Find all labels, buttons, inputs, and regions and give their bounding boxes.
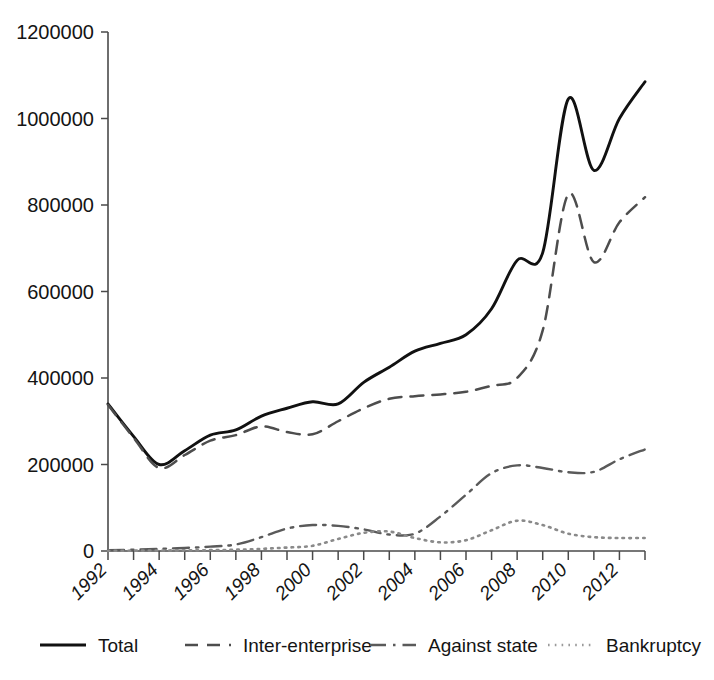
series-line-against-state: [108, 449, 645, 550]
y-tick-label: 0: [83, 540, 94, 562]
x-tick-label: 2012: [577, 559, 623, 605]
y-tick-label: 1000000: [16, 108, 94, 130]
y-tick-label: 200000: [27, 454, 94, 476]
series-line-total: [108, 82, 645, 465]
legend-item-label: Bankruptcy: [606, 635, 702, 656]
legend-item-label: Total: [98, 635, 138, 656]
x-tick-label: 2002: [321, 559, 367, 605]
x-tick-label: 2010: [526, 559, 572, 605]
x-tick-label: 1998: [220, 559, 265, 604]
x-tick-label: 1996: [168, 559, 213, 604]
x-tick-label: 1994: [117, 559, 162, 604]
legend-item-total: Total: [40, 635, 138, 656]
legend-item-inter-enterprise: Inter-enterprise: [185, 635, 372, 656]
x-tick-label: 2000: [270, 559, 316, 605]
x-axis-tick-marks: [108, 551, 645, 560]
series-line-inter-enterprise: [108, 193, 645, 468]
x-tick-label: 2006: [423, 559, 469, 605]
line-chart-plot: 020000040000060000080000010000001200000 …: [0, 0, 714, 680]
legend-item-label: Inter-enterprise: [243, 635, 372, 656]
x-axis-tick-labels: 1992199419961998200020022004200620082010…: [66, 559, 622, 605]
x-tick-label: 2004: [372, 559, 417, 604]
legend-item-bankruptcy: Bankruptcy: [548, 635, 702, 656]
legend-item-label: Against state: [428, 635, 538, 656]
y-tick-label: 800000: [27, 194, 94, 216]
y-tick-label: 1200000: [16, 21, 94, 43]
y-tick-label: 400000: [27, 367, 94, 389]
x-tick-label: 2008: [475, 559, 521, 605]
chart-legend: TotalInter-enterpriseAgainst stateBankru…: [40, 635, 702, 656]
y-axis-tick-marks: [101, 32, 108, 551]
series-line-bankruptcy: [108, 521, 645, 551]
chart-figure: 020000040000060000080000010000001200000 …: [0, 0, 714, 680]
legend-item-against-state: Against state: [370, 635, 538, 656]
y-axis-tick-labels: 020000040000060000080000010000001200000: [16, 21, 94, 562]
x-tick-label: 1992: [66, 559, 111, 604]
chart-series-group: [108, 82, 645, 551]
y-tick-label: 600000: [27, 281, 94, 303]
